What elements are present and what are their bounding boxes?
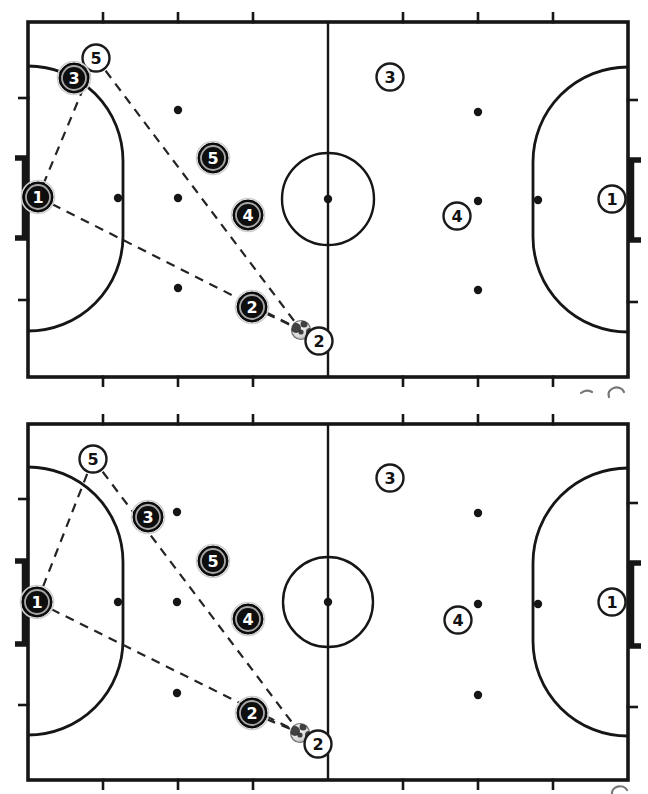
diagram-phase-2: 1234512345	[15, 414, 641, 790]
goal-right	[632, 563, 642, 646]
player-black-2: 2	[236, 697, 269, 730]
diagram-phase-1: 1234512345	[15, 12, 641, 387]
player-black-5: 5	[197, 545, 230, 578]
scan-smudge-dash	[581, 391, 592, 393]
goal-right	[632, 160, 642, 240]
position-dot	[474, 286, 482, 294]
player-black-4: 4	[232, 603, 265, 636]
position-dot	[173, 689, 181, 697]
player-white-4: 4	[444, 203, 471, 230]
player-white-number: 3	[384, 68, 395, 87]
scan-smudge-circle-top	[608, 387, 624, 397]
position-dot	[474, 197, 482, 205]
player-white-number: 1	[606, 593, 617, 612]
player-white-number: 1	[606, 190, 617, 209]
player-white-5: 5	[80, 446, 107, 473]
player-black-5: 5	[197, 142, 230, 175]
player-black-number: 4	[242, 610, 253, 629]
player-white-2: 2	[306, 328, 333, 355]
player-white-number: 2	[312, 735, 323, 754]
player-black-number: 3	[68, 69, 79, 88]
player-black-1: 1	[22, 181, 55, 214]
position-dot	[474, 691, 482, 699]
position-dot	[534, 600, 542, 608]
scan-smudge-circle-bottom	[612, 786, 627, 794]
player-white-number: 3	[384, 469, 395, 488]
position-dot	[474, 600, 482, 608]
player-black-number: 2	[246, 704, 257, 723]
player-black-2: 2	[236, 291, 269, 324]
player-white-1: 1	[599, 589, 626, 616]
player-white-number: 4	[451, 207, 462, 226]
player-black-number: 5	[207, 552, 218, 571]
futsal-diagrams-svg: 12345123451234512345	[0, 0, 648, 794]
ball-patch	[297, 732, 302, 737]
pass-line	[96, 58, 301, 330]
position-dot	[174, 194, 182, 202]
player-white-number: 2	[313, 332, 324, 351]
player-black-3: 3	[58, 62, 91, 95]
position-dot	[534, 196, 542, 204]
position-dot	[173, 598, 181, 606]
player-black-number: 3	[142, 508, 153, 527]
player-white-3: 3	[377, 64, 404, 91]
position-dot	[174, 106, 182, 114]
player-black-number: 1	[32, 188, 43, 207]
player-black-number: 5	[207, 149, 218, 168]
player-black-number: 2	[246, 298, 257, 317]
scanned-tactics-page: 12345123451234512345	[0, 0, 648, 794]
position-dot	[173, 508, 181, 516]
player-black-3: 3	[132, 501, 165, 534]
player-white-1: 1	[599, 186, 626, 213]
player-white-4: 4	[445, 607, 472, 634]
player-white-number: 5	[87, 450, 98, 469]
ball-patch	[298, 329, 303, 334]
player-white-number: 5	[90, 49, 101, 68]
position-dot	[114, 194, 122, 202]
player-black-number: 1	[31, 593, 42, 612]
pass-line	[37, 459, 93, 602]
position-dot	[324, 598, 332, 606]
player-white-number: 4	[452, 611, 463, 630]
player-black-4: 4	[232, 199, 265, 232]
player-white-2: 2	[305, 731, 332, 758]
position-dot	[174, 284, 182, 292]
position-dot	[324, 195, 332, 203]
player-white-3: 3	[377, 465, 404, 492]
position-dot	[474, 108, 482, 116]
position-dot	[474, 509, 482, 517]
player-black-1: 1	[21, 586, 54, 619]
player-black-number: 4	[242, 206, 253, 225]
position-dot	[114, 598, 122, 606]
